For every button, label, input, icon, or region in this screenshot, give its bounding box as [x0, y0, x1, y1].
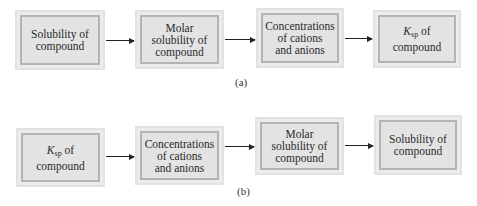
box-a-molar-solubility: Molar solubility of compound — [135, 10, 224, 69]
ksp-line: Ksp of — [36, 144, 85, 160]
box-b-ksp-inner: Ksp of compound — [21, 133, 100, 182]
arrow-right-icon — [225, 39, 255, 40]
ksp-k: K — [47, 144, 55, 156]
box-text-line: Solubility of — [31, 28, 89, 40]
ksp-of: of — [62, 144, 74, 156]
box-text-line: Solubility of — [389, 133, 447, 145]
box-b-concentrations: Concentrations of cations and anions — [135, 126, 224, 185]
box-a-solubility: Solubility of compound — [15, 10, 105, 70]
ksp-line: Ksp of — [393, 25, 442, 41]
box-text-line: compound — [31, 40, 89, 52]
box-text-line: compound — [393, 41, 442, 53]
box-text-line: Molar — [152, 22, 208, 34]
box-text-line: compound — [152, 46, 208, 58]
box-text-line: Concentrations — [265, 20, 335, 32]
ksp-k: K — [403, 25, 411, 37]
box-text-line: Concentrations — [145, 138, 215, 150]
box-a-ksp: Ksp of compound — [373, 10, 461, 68]
box-text-line: solubility of — [272, 140, 328, 152]
arrow-right-icon — [345, 145, 373, 146]
arrow-right-icon — [225, 146, 254, 147]
arrow-right-icon — [345, 38, 372, 39]
box-text-line: and anions — [145, 162, 215, 174]
box-text-line: and anions — [265, 44, 335, 56]
box-b-solubility: Solubility of compound — [374, 115, 462, 175]
box-text-line: of cations — [265, 32, 335, 44]
box-a-solubility-inner: Solubility of compound — [20, 15, 100, 65]
box-a-ksp-inner: Ksp of compound — [378, 15, 456, 63]
box-text-line: Molar — [272, 128, 328, 140]
box-b-molar-solubility: Molar solubility of compound — [255, 117, 344, 175]
box-a-concentrations-inner: Concentrations of cations and anions — [261, 13, 339, 63]
panel-label-a: (a) — [235, 76, 247, 88]
box-b-molar-solubility-inner: Molar solubility of compound — [260, 122, 339, 170]
ksp-of: of — [418, 25, 430, 37]
box-text-line: compound — [36, 160, 85, 172]
box-b-concentrations-inner: Concentrations of cations and anions — [140, 131, 219, 180]
box-b-ksp: Ksp of compound — [16, 128, 105, 187]
panel-label-b: (b) — [237, 185, 250, 197]
ksp-subscript: sp — [55, 149, 62, 158]
box-a-concentrations: Concentrations of cations and anions — [256, 8, 344, 68]
box-b-solubility-inner: Solubility of compound — [379, 120, 457, 170]
box-text-line: compound — [272, 152, 328, 164]
arrow-right-icon — [106, 156, 134, 157]
box-text-line: compound — [389, 145, 447, 157]
box-a-molar-solubility-inner: Molar solubility of compound — [140, 15, 219, 64]
arrow-right-icon — [106, 40, 134, 41]
box-text-line: of cations — [145, 150, 215, 162]
box-text-line: solubility of — [152, 34, 208, 46]
